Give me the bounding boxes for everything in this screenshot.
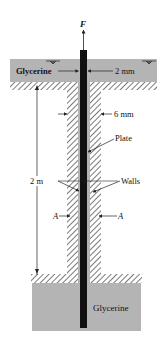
top-right-ground-hatch xyxy=(90,82,157,90)
left-wall xyxy=(67,90,78,274)
bottom-left-ground-hatch xyxy=(31,274,78,283)
diagram-canvas: F Glycerine 2 mm 6 mm 2 m Plate Walls A … xyxy=(0,0,166,351)
section-marker-left: A xyxy=(52,211,59,221)
length-arrow-bottom xyxy=(35,269,39,274)
section-marker-right: A xyxy=(117,211,124,221)
walls-label: Walls xyxy=(121,176,140,186)
top-left-ground-hatch xyxy=(10,82,78,90)
gap-dimension-label: 2 mm xyxy=(115,66,135,76)
length-dimension-label: 2 m xyxy=(30,176,43,186)
bottom-glycerine-label: Glycerine xyxy=(93,303,128,313)
force-label: F xyxy=(79,19,86,29)
bottom-right-ground-hatch xyxy=(90,274,142,283)
wall-gap-dimension-label: 6 mm xyxy=(114,109,134,119)
plate xyxy=(80,50,87,328)
right-wall xyxy=(90,90,101,274)
top-glycerine-label: Glycerine xyxy=(16,66,52,76)
plate-label: Plate xyxy=(115,133,132,143)
